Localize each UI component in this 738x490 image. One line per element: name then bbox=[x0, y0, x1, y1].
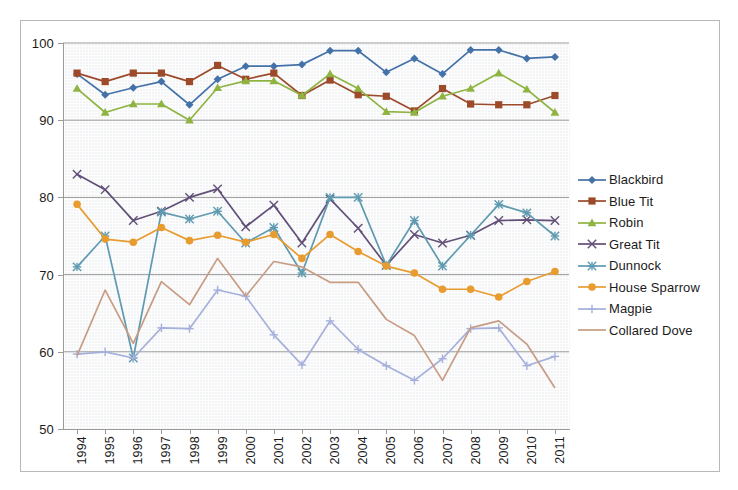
y-axis-tick bbox=[58, 275, 63, 276]
legend-item-dunnock[interactable]: Dunnock bbox=[577, 255, 717, 277]
x-axis-tick bbox=[471, 429, 472, 434]
legend-swatch-icon bbox=[577, 216, 607, 230]
series-line bbox=[77, 204, 555, 297]
legend-item-blackbird[interactable]: Blackbird bbox=[577, 169, 717, 191]
x-axis-tick-label: 1998 bbox=[188, 436, 202, 465]
x-axis-tick bbox=[161, 429, 162, 434]
chart-frame: 5060708090100199419951996199719981999200… bbox=[20, 20, 720, 472]
legend-item-robin[interactable]: Robin bbox=[577, 212, 717, 234]
series-dunnock bbox=[73, 193, 559, 362]
y-axis-tick bbox=[58, 197, 63, 198]
x-axis-tick-label: 2003 bbox=[328, 436, 342, 465]
x-axis-tick-label: 2009 bbox=[497, 436, 511, 465]
x-axis-tick bbox=[105, 429, 106, 434]
legend-label: Blackbird bbox=[609, 172, 663, 187]
x-axis-tick bbox=[527, 429, 528, 434]
legend-label: Great Tit bbox=[609, 237, 660, 252]
x-axis-tick-label: 2006 bbox=[412, 436, 426, 465]
legend-item-house-sparrow[interactable]: House Sparrow bbox=[577, 277, 717, 299]
x-axis-tick bbox=[330, 429, 331, 434]
legend-swatch-icon bbox=[577, 237, 607, 251]
x-axis-tick-label: 1999 bbox=[216, 436, 230, 465]
x-axis-tick-label: 2005 bbox=[384, 436, 398, 465]
x-axis-tick bbox=[499, 429, 500, 434]
x-axis-tick bbox=[246, 429, 247, 434]
legend-swatch-icon bbox=[577, 302, 607, 316]
x-axis-tick-label: 1995 bbox=[103, 436, 117, 465]
legend-item-collared-dove[interactable]: Collared Dove bbox=[577, 320, 717, 342]
legend-swatch-icon bbox=[577, 194, 607, 208]
legend-swatch-icon bbox=[577, 323, 607, 337]
series-blue-tit bbox=[73, 62, 558, 115]
series-line bbox=[77, 174, 555, 265]
legend-label: House Sparrow bbox=[609, 280, 700, 295]
x-axis-tick bbox=[77, 429, 78, 434]
x-axis-tick bbox=[133, 429, 134, 434]
series-line bbox=[77, 50, 555, 105]
x-axis-tick-label: 1996 bbox=[131, 436, 145, 465]
y-axis-tick-label: 100 bbox=[32, 36, 54, 51]
legend-label: Robin bbox=[609, 215, 643, 230]
x-axis-tick-label: 2000 bbox=[244, 436, 258, 465]
legend-item-magpie[interactable]: Magpie bbox=[577, 298, 717, 320]
legend-label: Dunnock bbox=[609, 258, 661, 273]
y-axis-tick bbox=[58, 429, 63, 430]
chart-legend: BlackbirdBlue TitRobinGreat TitDunnockHo… bbox=[577, 169, 717, 341]
y-axis-tick-label: 60 bbox=[39, 344, 54, 359]
x-axis-tick-label: 2007 bbox=[441, 436, 455, 465]
legend-label: Magpie bbox=[609, 301, 652, 316]
x-axis-tick bbox=[443, 429, 444, 434]
legend-item-blue-tit[interactable]: Blue Tit bbox=[577, 191, 717, 213]
legend-swatch-icon bbox=[577, 259, 607, 273]
x-axis-tick-label: 2004 bbox=[356, 436, 370, 465]
x-axis-tick bbox=[555, 429, 556, 434]
x-axis-tick-label: 2002 bbox=[300, 436, 314, 465]
y-axis-tick bbox=[58, 120, 63, 121]
series-line bbox=[77, 73, 555, 120]
series-line bbox=[77, 290, 555, 380]
x-axis-tick-label: 2010 bbox=[525, 436, 539, 465]
x-axis-tick bbox=[386, 429, 387, 434]
y-axis-tick-label: 90 bbox=[39, 113, 54, 128]
legend-swatch-icon bbox=[577, 173, 607, 187]
legend-item-great-tit[interactable]: Great Tit bbox=[577, 234, 717, 256]
x-axis-tick bbox=[414, 429, 415, 434]
y-axis-tick-label: 70 bbox=[39, 267, 54, 282]
x-axis-tick-label: 1994 bbox=[75, 436, 89, 465]
x-axis-tick-label: 2001 bbox=[272, 436, 286, 465]
x-axis-tick bbox=[190, 429, 191, 434]
series-great-tit bbox=[73, 170, 559, 269]
x-axis-tick-label: 2011 bbox=[553, 436, 567, 464]
legend-swatch-icon bbox=[577, 280, 607, 294]
x-axis-tick-label: 1997 bbox=[159, 436, 173, 465]
x-axis-tick-label: 2008 bbox=[469, 436, 483, 465]
plot-outer: 5060708090100199419951996199719981999200… bbox=[63, 43, 569, 429]
y-axis-tick bbox=[58, 352, 63, 353]
series-blackbird bbox=[73, 46, 559, 109]
chart-plot-svg bbox=[63, 43, 569, 429]
x-axis-tick bbox=[218, 429, 219, 434]
y-axis-tick bbox=[58, 43, 63, 44]
y-axis-tick-label: 50 bbox=[39, 422, 54, 437]
series-robin bbox=[73, 69, 560, 124]
legend-label: Blue Tit bbox=[609, 194, 653, 209]
legend-label: Collared Dove bbox=[609, 323, 693, 338]
x-axis-tick bbox=[302, 429, 303, 434]
series-magpie bbox=[73, 286, 559, 385]
y-axis-tick-label: 80 bbox=[39, 190, 54, 205]
x-axis-tick bbox=[358, 429, 359, 434]
x-axis-tick bbox=[274, 429, 275, 434]
